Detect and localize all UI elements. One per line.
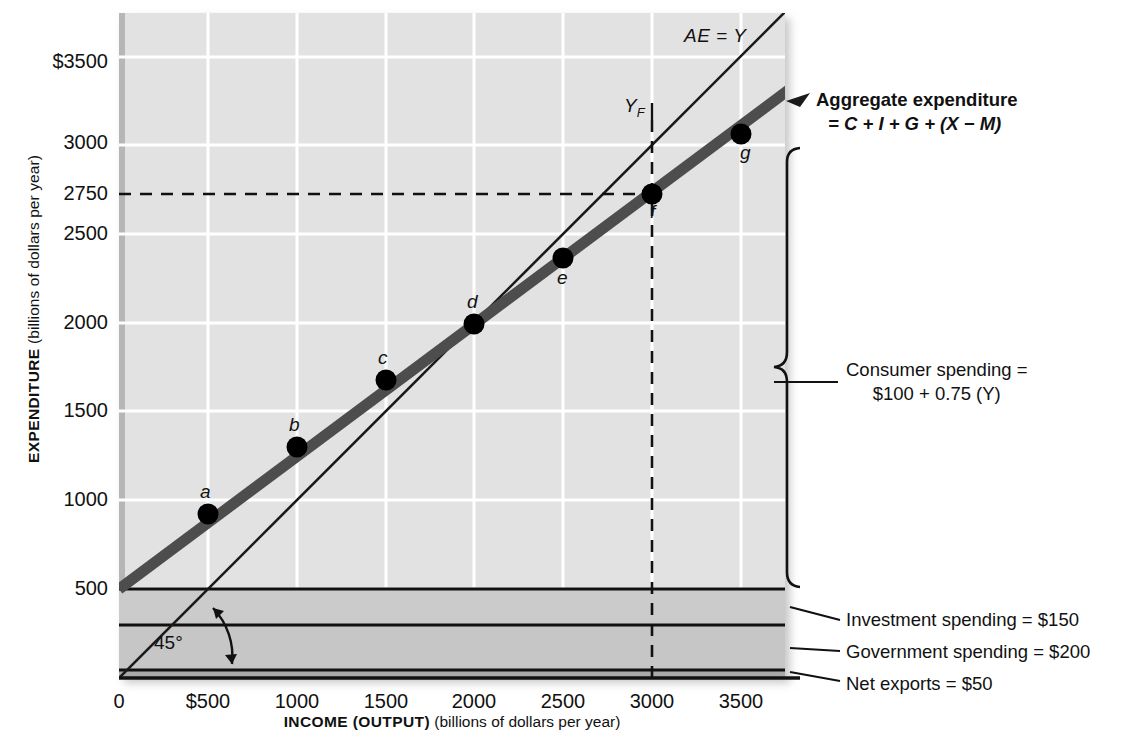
full-employment-output-label: YF	[624, 95, 645, 120]
band-government-spending	[119, 625, 785, 670]
x-tick-0: 0	[79, 690, 159, 713]
point-label-e: e	[557, 267, 568, 289]
yf-subscript: F	[637, 105, 645, 120]
point-label-g: g	[740, 142, 751, 164]
x-axis-title-rest: (billions of dollars per year)	[430, 713, 620, 730]
x-axis-title-bold: INCOME (OUTPUT)	[284, 713, 430, 730]
figure-root: EXPENDITURE (billions of dollars per yea…	[0, 0, 1133, 746]
government-spending-annotation: Government spending = $200	[846, 640, 1090, 664]
x-tick-1000: 1000	[257, 690, 337, 713]
band-investment-spending	[119, 589, 785, 625]
investment-spending-annotation: Investment spending = $150	[846, 608, 1079, 632]
yf-base: Y	[624, 95, 637, 116]
y-tick-1000: 1000	[10, 488, 108, 511]
point-label-d: d	[467, 291, 478, 313]
aggregate-expenditure-annotation: Aggregate expenditure = C + I + G + (X −…	[816, 88, 1018, 137]
x-tick-3000: 3000	[612, 690, 692, 713]
data-point-e[interactable]	[553, 248, 574, 269]
point-label-c: c	[378, 347, 388, 369]
x-tick-500: $500	[168, 690, 248, 713]
y-tick-3000: 3000	[10, 131, 108, 154]
consumer-spending-annotation-line2: $100 + 0.75 (Y)	[846, 382, 1028, 406]
y-tick-3500: $3500	[10, 50, 108, 73]
y-tick-2750: 2750	[10, 182, 108, 205]
x-tick-3500: 3500	[701, 690, 781, 713]
point-label-f: f	[650, 201, 655, 223]
y-tick-2500: 2500	[10, 222, 108, 245]
point-label-b: b	[289, 414, 300, 436]
x-tick-1500: 1500	[346, 690, 426, 713]
data-point-c[interactable]	[376, 370, 397, 391]
consumer-spending-annotation: Consumer spending = $100 + 0.75 (Y)	[846, 358, 1028, 407]
point-label-a: a	[200, 481, 211, 503]
y-tick-2000: 2000	[10, 311, 108, 334]
aggregate-expenditure-leader-arrow	[786, 93, 810, 107]
x-tick-2500: 2500	[523, 690, 603, 713]
y-axis-title: EXPENDITURE (billions of dollars per yea…	[25, 89, 43, 529]
aggregate-expenditure-annotation-line1: Aggregate expenditure	[816, 88, 1018, 112]
panel-left-edge	[119, 13, 125, 678]
consumer-spending-annotation-line1: Consumer spending =	[846, 358, 1028, 382]
net-exports-annotation: Net exports = $50	[846, 672, 993, 696]
identity-line-label: AE = Y	[684, 25, 746, 47]
x-tick-2000: 2000	[434, 690, 514, 713]
angle-45-label: 45°	[154, 632, 183, 654]
data-point-b[interactable]	[287, 437, 308, 458]
y-tick-500: 500	[10, 577, 108, 600]
aggregate-expenditure-annotation-line2: = C + I + G + (X − M)	[816, 112, 1018, 136]
government-leader-line	[790, 648, 840, 651]
investment-leader-line	[790, 607, 840, 620]
x-axis-title: INCOME (OUTPUT) (billions of dollars per…	[119, 713, 785, 731]
data-point-a[interactable]	[198, 504, 219, 525]
y-tick-1500: 1500	[10, 399, 108, 422]
data-point-d[interactable]	[464, 314, 485, 335]
